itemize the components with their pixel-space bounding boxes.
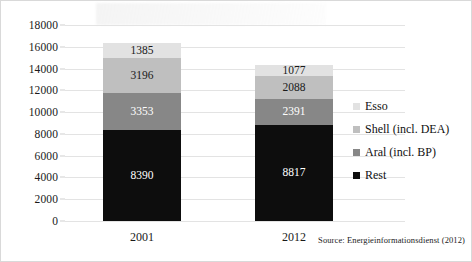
bar-segment[interactable]: 2088 xyxy=(255,76,333,99)
bar-segment-value: 2088 xyxy=(283,82,306,94)
y-tick-mark xyxy=(60,25,65,26)
y-tick-mark xyxy=(60,90,65,91)
legend-swatch-icon xyxy=(353,126,360,133)
y-tick-label: 10000 xyxy=(29,106,58,118)
legend-item[interactable]: Aral (incl. BP) xyxy=(353,145,449,160)
legend-item-label: Rest xyxy=(365,168,386,183)
bar-segment[interactable]: 3196 xyxy=(103,58,181,93)
bar-segment[interactable]: 8390 xyxy=(103,130,181,221)
bar-segment-value: 2391 xyxy=(283,106,306,118)
source-note: Source: Energieinformationsdienst (2012) xyxy=(318,235,465,245)
legend-item-label: Esso xyxy=(365,99,388,114)
y-tick-mark xyxy=(60,199,65,200)
bar-segment[interactable]: 1077 xyxy=(255,65,333,77)
legend-swatch-icon xyxy=(353,172,360,179)
y-tick-label: 14000 xyxy=(29,63,58,75)
x-axis-label-2001: 2001 xyxy=(103,230,181,245)
y-tick-label: 16000 xyxy=(29,41,58,53)
y-tick-mark xyxy=(60,112,65,113)
bar-segment[interactable]: 2391 xyxy=(255,99,333,125)
y-tick-label: 12000 xyxy=(29,84,58,96)
y-tick-label: 2000 xyxy=(35,193,58,205)
bar-segment[interactable]: 3353 xyxy=(103,93,181,130)
bar-column-2012[interactable]: 1077208823918817 xyxy=(255,65,333,221)
y-tick-mark xyxy=(60,46,65,47)
y-tick-label: 8000 xyxy=(35,128,58,140)
y-tick-label: 6000 xyxy=(35,150,58,162)
bar-segment-value: 3353 xyxy=(131,106,154,118)
gridline xyxy=(65,25,405,26)
bar-segment-value: 1385 xyxy=(131,45,154,57)
y-tick-label: 0 xyxy=(52,215,58,227)
legend-item[interactable]: Esso xyxy=(353,99,449,114)
y-tick-mark xyxy=(60,177,65,178)
y-tick-mark xyxy=(60,155,65,156)
legend-item-label: Shell (incl. DEA) xyxy=(365,122,449,137)
bar-segment-value: 8390 xyxy=(131,170,154,182)
chart-figure: 0200040006000800010000120001400016000180… xyxy=(0,0,472,262)
y-tick-mark xyxy=(60,221,65,222)
bar-segment[interactable]: 1385 xyxy=(103,43,181,58)
legend-swatch-icon xyxy=(353,103,360,110)
y-tick-mark xyxy=(60,68,65,69)
legend-swatch-icon xyxy=(353,149,360,156)
y-tick-label: 4000 xyxy=(35,171,58,183)
watermark xyxy=(96,3,326,25)
bar-segment[interactable]: 8817 xyxy=(255,125,333,221)
y-tick-mark xyxy=(60,133,65,134)
y-axis-line xyxy=(65,25,66,221)
y-tick-label: 18000 xyxy=(29,19,58,31)
legend-item[interactable]: Shell (incl. DEA) xyxy=(353,122,449,137)
bar-segment-value: 8817 xyxy=(283,167,306,179)
legend-item-label: Aral (incl. BP) xyxy=(365,145,436,160)
bar-segment-value: 3196 xyxy=(131,70,154,82)
gridline xyxy=(65,221,405,222)
bar-column-2001[interactable]: 1385319633538390 xyxy=(103,43,181,221)
legend-item[interactable]: Rest xyxy=(353,168,449,183)
bar-segment-value: 1077 xyxy=(283,65,306,77)
chart-legend: EssoShell (incl. DEA)Aral (incl. BP)Rest xyxy=(353,99,449,183)
